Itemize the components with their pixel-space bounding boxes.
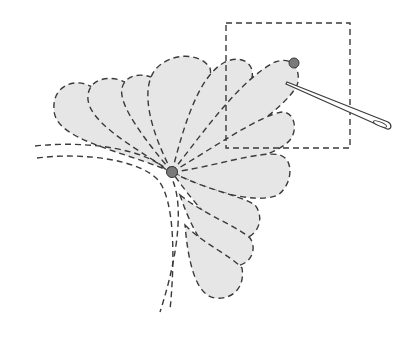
needle-icon (286, 82, 391, 129)
feather-quilting-diagram (0, 0, 412, 339)
spine-lines (35, 144, 178, 312)
spine-inner (37, 156, 173, 310)
spine-outer (35, 144, 178, 312)
knot-icon-top (289, 58, 299, 68)
diagram-svg (0, 0, 412, 339)
knot-icon-center (167, 167, 178, 178)
